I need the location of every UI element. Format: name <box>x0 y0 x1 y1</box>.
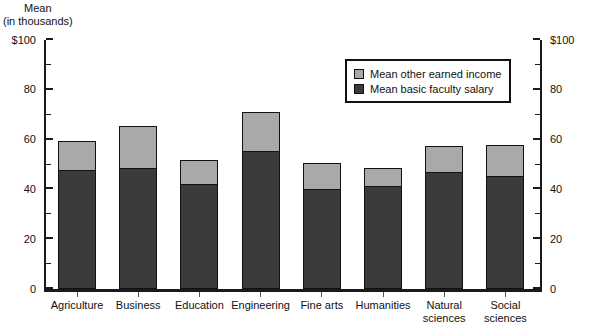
bar-segment-basic-faculty-salary <box>303 188 341 289</box>
right-axis-tick-40 <box>533 187 540 189</box>
left-axis-tick-90 <box>46 64 51 65</box>
bar-social-sciences <box>486 145 524 289</box>
bottom-axis-line <box>44 289 542 292</box>
bar-segment-other-earned-income <box>364 168 402 187</box>
left-tick-label-40: 40 <box>24 184 36 195</box>
right-tick-label-20: 20 <box>550 234 562 245</box>
right-axis-tick-70 <box>535 114 540 115</box>
x-axis-tick <box>138 292 139 297</box>
right-axis-tick-60 <box>533 138 540 140</box>
left-tick-label-60: 60 <box>24 134 36 145</box>
left-axis-tick-20 <box>46 237 53 239</box>
right-axis-tick-20 <box>533 237 540 239</box>
left-tick-label-20: 20 <box>24 234 36 245</box>
bar-segment-other-earned-income <box>58 141 96 171</box>
bar-segment-basic-faculty-salary <box>364 186 402 289</box>
bar-segment-other-earned-income <box>242 112 280 152</box>
right-tick-label-100: $100 <box>550 35 574 46</box>
bar-segment-basic-faculty-salary <box>180 183 218 289</box>
right-axis-tick-10 <box>535 263 540 264</box>
bar-segment-basic-faculty-salary <box>58 169 96 289</box>
x-axis-tick <box>321 292 322 297</box>
category-label-social-sciences: Social sciences <box>460 299 550 324</box>
y-axis-title-line-2: (in thousands) <box>3 15 73 28</box>
legend-item-basic-faculty-salary: Mean basic faculty salary <box>354 81 501 96</box>
bar-segment-basic-faculty-salary <box>486 176 524 289</box>
stacked-bar-chart: Mean (in thousands) 020406080$100 020406… <box>0 0 590 326</box>
chart-legend: Mean other earned income Mean basic facu… <box>345 59 511 103</box>
bar-segment-other-earned-income <box>425 146 463 174</box>
left-axis-tick-10 <box>46 263 51 264</box>
x-axis-tick <box>444 292 445 297</box>
left-axis-line <box>44 40 46 292</box>
bar-humanities <box>364 168 402 289</box>
legend-item-other-earned-income: Mean other earned income <box>354 66 501 81</box>
legend-swatch-icon-basic-faculty-salary <box>354 84 364 94</box>
bar-fine-arts <box>303 163 341 289</box>
x-axis-tick <box>260 292 261 297</box>
left-tick-label-0: 0 <box>30 284 36 295</box>
y-axis-title-line-1: Mean <box>24 2 52 15</box>
left-axis-tick-30 <box>46 213 51 214</box>
right-tick-label-40: 40 <box>550 184 562 195</box>
x-axis-tick <box>199 292 200 297</box>
right-axis-line <box>540 40 542 292</box>
bar-natural-sciences <box>425 146 463 289</box>
left-axis-tick-40 <box>46 187 53 189</box>
left-axis-tick-80 <box>46 88 53 90</box>
right-axis-tick-80 <box>533 88 540 90</box>
right-axis-tick-30 <box>535 213 540 214</box>
left-axis-tick-70 <box>46 114 51 115</box>
bar-business <box>119 126 157 289</box>
bar-agriculture <box>58 141 96 289</box>
bar-segment-basic-faculty-salary <box>119 167 157 289</box>
legend-swatch-icon-other-earned-income <box>354 69 364 79</box>
right-tick-label-60: 60 <box>550 134 562 145</box>
right-tick-label-80: 80 <box>550 84 562 95</box>
left-tick-label-100: $100 <box>12 35 36 46</box>
legend-label-other-earned-income: Mean other earned income <box>370 68 501 80</box>
legend-label-basic-faculty-salary: Mean basic faculty salary <box>370 83 494 95</box>
right-axis-tick-50 <box>535 164 540 165</box>
left-tick-label-80: 80 <box>24 84 36 95</box>
left-axis-tick-60 <box>46 138 53 140</box>
bar-segment-basic-faculty-salary <box>425 172 463 289</box>
bar-segment-other-earned-income <box>486 145 524 178</box>
x-axis-tick <box>505 292 506 297</box>
left-axis-tick-50 <box>46 164 51 165</box>
x-axis-tick <box>383 292 384 297</box>
x-axis-tick <box>77 292 78 297</box>
right-axis-tick-100 <box>533 38 540 40</box>
bar-segment-basic-faculty-salary <box>242 151 280 289</box>
right-axis-tick-0 <box>533 287 540 289</box>
bar-engineering <box>242 112 280 289</box>
bar-segment-other-earned-income <box>180 160 218 185</box>
bar-education <box>180 160 218 289</box>
right-axis-tick-90 <box>535 64 540 65</box>
left-axis-tick-100 <box>46 38 53 40</box>
left-axis-tick-0 <box>46 287 53 289</box>
bar-segment-other-earned-income <box>119 126 157 169</box>
right-tick-label-0: 0 <box>550 284 556 295</box>
bar-segment-other-earned-income <box>303 163 341 189</box>
